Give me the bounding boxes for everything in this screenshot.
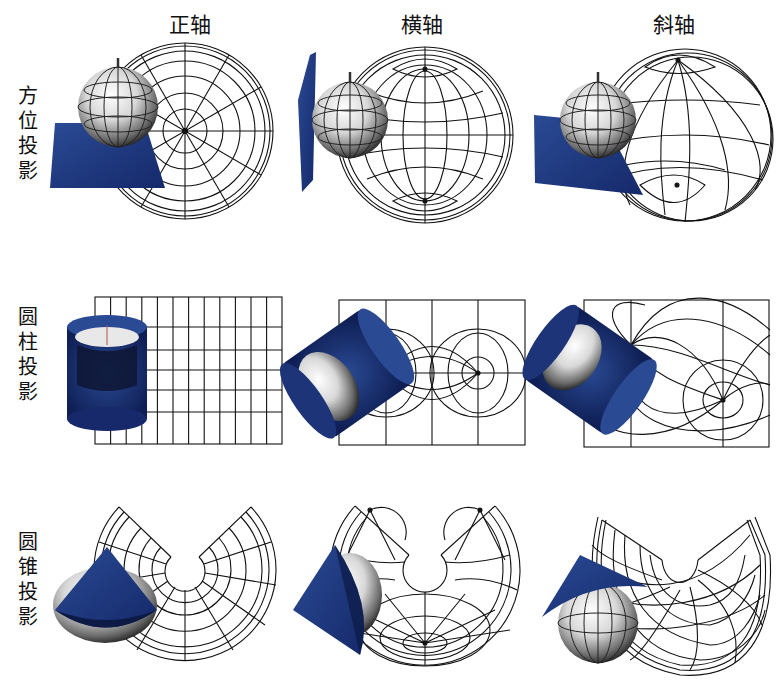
- cylindrical-transverse-diagram: [290, 285, 540, 455]
- azimuthal-transverse-diagram: [290, 40, 530, 250]
- conic-transverse-diagram: [290, 505, 540, 685]
- conic-oblique-diagram: [530, 505, 782, 685]
- row-label-char: 影: [16, 380, 40, 405]
- cylindrical-oblique-diagram: [530, 285, 782, 455]
- cylinder-shape: [271, 301, 423, 445]
- conic-normal-diagram: [55, 505, 295, 685]
- row-label-char: 圆: [16, 305, 40, 330]
- globe-icon: [312, 72, 388, 158]
- row-label-char: 投: [16, 355, 40, 380]
- row-label-char: 影: [16, 159, 40, 184]
- globe-icon: [560, 72, 636, 158]
- globe-icon: [78, 58, 158, 147]
- azimuthal-normal-diagram: [50, 40, 290, 250]
- cone-shape: [53, 547, 157, 643]
- cone-shape: [542, 555, 648, 663]
- row-label-char: 投: [16, 580, 40, 605]
- cylindrical-normal-diagram: [55, 285, 295, 455]
- column-header-oblique: 斜轴: [653, 8, 695, 38]
- row-label-char: 影: [16, 605, 40, 630]
- cylinder-shape: [67, 315, 147, 431]
- row-label-char: 投: [16, 134, 40, 159]
- row-label-conic: 圆 锥 投 影: [16, 530, 40, 630]
- row-label-azimuthal: 方 位 投 影: [16, 84, 40, 184]
- row-label-char: 位: [16, 109, 40, 134]
- column-header-normal: 正轴: [169, 8, 211, 38]
- row-label-cylindrical: 圆 柱 投 影: [16, 305, 40, 405]
- row-label-char: 柱: [16, 330, 40, 355]
- cone-shape: [293, 545, 382, 655]
- row-label-char: 圆: [16, 530, 40, 555]
- column-header-transverse: 横轴: [401, 8, 443, 38]
- row-label-char: 锥: [16, 555, 40, 580]
- row-label-char: 方: [16, 84, 40, 109]
- azimuthal-oblique-diagram: [525, 40, 782, 250]
- cylinder-shape: [513, 298, 665, 442]
